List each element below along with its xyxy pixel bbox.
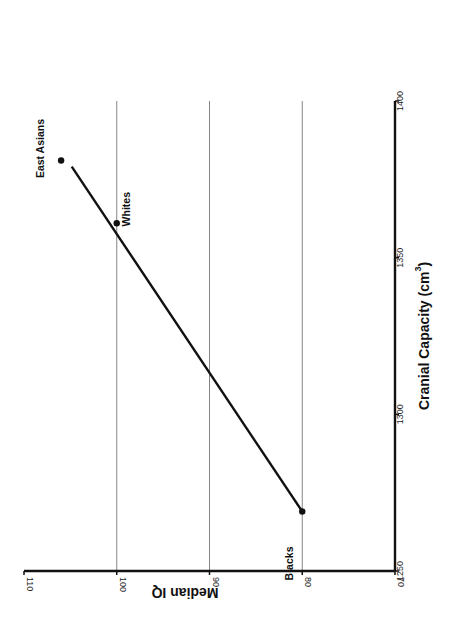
- iq-tick-label: 110: [25, 577, 35, 591]
- trendline: [72, 167, 303, 512]
- point-label: Whites: [120, 192, 132, 227]
- capacity-tick-label: 1300: [395, 404, 405, 424]
- capacity-tick-label: 1350: [395, 248, 405, 268]
- gridlines: [117, 101, 303, 571]
- capacity-tick-label: 1400: [395, 91, 405, 111]
- x-axis-title: Cranial Capacity (cm3): [413, 262, 431, 410]
- data-point: [299, 508, 305, 514]
- y-axis-title: Median IQ: [151, 585, 218, 601]
- capacity-axis-ticks: 1250130013501400: [395, 91, 405, 581]
- x-axis-title-main: Cranial Capacity (cm: [416, 272, 432, 411]
- data-points: BlacksWhitesEast Asians: [34, 119, 306, 581]
- point-label: East Asians: [34, 119, 46, 178]
- iq-tick-label: 100: [118, 577, 128, 592]
- data-point: [58, 157, 64, 163]
- iq-tick-label: 80: [303, 577, 313, 587]
- iq-cranial-chart: 708090100110 1250130013501400 BlacksWhit…: [0, 0, 450, 630]
- trend-line: [72, 167, 303, 512]
- point-label: Blacks: [283, 546, 295, 580]
- capacity-tick-label: 1250: [395, 561, 405, 581]
- x-axis-title-close: ): [416, 262, 432, 267]
